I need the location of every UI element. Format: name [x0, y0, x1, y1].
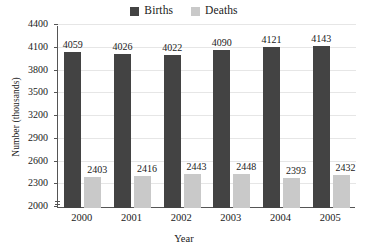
bar-groups: 4059240340262416402224434090244841212393…: [58, 26, 356, 208]
y-axis-tick-label: 2600: [28, 156, 48, 166]
bar-births-2004: 4121: [263, 47, 280, 208]
bar-value-label: 2432: [336, 163, 356, 173]
x-axis-tick-labels: 200020012002200320042005: [57, 212, 355, 224]
bar-group: 41432432: [306, 26, 356, 208]
legend-swatch-births-icon: [130, 7, 139, 16]
legend-entry-births: Births: [130, 5, 173, 17]
y-axis-tick-label: 3800: [28, 65, 48, 75]
bar-group: 40902448: [207, 26, 257, 208]
bar-births-2000: 4059: [64, 52, 81, 208]
bar-births-2003: 4090: [213, 50, 230, 208]
bar-value-label: 4022: [162, 43, 182, 53]
bar-value-label: 2393: [286, 166, 306, 176]
bar-value-label: 2448: [236, 162, 256, 172]
x-axis-title: Year: [0, 233, 368, 244]
x-axis-tick-label: 2002: [156, 212, 206, 224]
bar-group: 40262416: [108, 26, 158, 208]
y-axis-tick-label: 2000: [28, 201, 48, 211]
legend-label-births: Births: [144, 5, 173, 17]
bar-births-2005: 4143: [313, 46, 330, 209]
x-axis-tick-label: 2005: [305, 212, 355, 224]
bar-chart: Births Deaths Number (thousands) 2000230…: [0, 0, 368, 251]
legend-entry-deaths: Deaths: [191, 5, 238, 17]
legend-swatch-deaths-icon: [191, 7, 200, 16]
bar-value-label: 2443: [187, 162, 207, 172]
plot-area: 200023002600290032003500380041004400 405…: [57, 26, 355, 208]
bar-group: 40222443: [157, 26, 207, 208]
y-axis-tick-label: 3200: [28, 110, 48, 120]
y-axis-tick-label: 2300: [28, 178, 48, 188]
gridline: [58, 24, 356, 25]
x-axis-tick-label: 2001: [107, 212, 157, 224]
bar-value-label: 2403: [87, 165, 107, 175]
y-axis-tick-label: 3500: [28, 87, 48, 97]
bar-value-label: 2416: [137, 164, 157, 174]
bar-value-label: 4059: [63, 40, 83, 50]
bar-value-label: 4121: [262, 35, 282, 45]
bar-deaths-2001: 2416: [134, 176, 151, 208]
bar-group: 41212393: [257, 26, 307, 208]
bar-deaths-2000: 2403: [84, 177, 101, 208]
y-axis-tick-label: 4100: [28, 42, 48, 52]
bar-births-2001: 4026: [114, 54, 131, 208]
bar-value-label: 4090: [212, 38, 232, 48]
chart-legend: Births Deaths: [0, 2, 368, 20]
bar-value-label: 4143: [311, 34, 331, 44]
bar-deaths-2004: 2393: [283, 178, 300, 208]
axis-break-icon: [55, 201, 60, 208]
x-axis-tick-label: 2004: [256, 212, 306, 224]
bar-deaths-2002: 2443: [184, 174, 201, 208]
x-axis-tick-label: 2003: [206, 212, 256, 224]
bar-group: 40592403: [58, 26, 108, 208]
y-axis-tick-label: 4400: [28, 19, 48, 29]
bar-births-2002: 4022: [164, 55, 181, 208]
x-axis-tick-label: 2000: [57, 212, 107, 224]
y-axis-title: Number (thousands): [11, 57, 21, 177]
bar-deaths-2005: 2432: [333, 175, 350, 208]
legend-label-deaths: Deaths: [205, 5, 238, 17]
bar-value-label: 4026: [113, 42, 133, 52]
bar-deaths-2003: 2448: [233, 174, 250, 208]
y-axis-tick: 4400: [54, 24, 58, 25]
y-axis-tick-label: 2900: [28, 133, 48, 143]
